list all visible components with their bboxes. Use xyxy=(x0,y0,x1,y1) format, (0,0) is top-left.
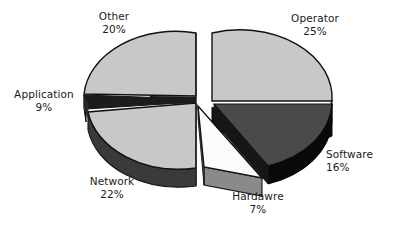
slice-label-network: Network 22% xyxy=(74,175,150,201)
slice-label-software-name: Software xyxy=(326,148,400,161)
slice-label-application-percent: 9% xyxy=(2,101,86,114)
slice-label-other-percent: 20% xyxy=(78,23,150,36)
slice-label-hardawre: Hardawre 7% xyxy=(216,190,300,216)
slice-label-operator-name: Operator xyxy=(272,12,358,25)
slice-label-software-percent: 16% xyxy=(326,161,400,174)
slice-label-other: Other 20% xyxy=(78,10,150,36)
slice-top-operator xyxy=(212,30,332,101)
slice-label-operator-percent: 25% xyxy=(272,25,358,38)
slice-label-hardawre-percent: 7% xyxy=(216,203,300,216)
slice-label-network-name: Network xyxy=(74,175,150,188)
slice-label-network-percent: 22% xyxy=(74,188,150,201)
slice-label-application: Application 9% xyxy=(2,88,86,114)
slice-label-operator: Operator 25% xyxy=(272,12,358,38)
slice-top-application-tip xyxy=(150,96,196,104)
slice-label-other-name: Other xyxy=(78,10,150,23)
pie-chart: Other 20% Operator 25% Software 16% Hard… xyxy=(0,0,400,232)
slice-label-application-name: Application xyxy=(2,88,86,101)
slice-label-hardawre-name: Hardawre xyxy=(216,190,300,203)
slice-label-software: Software 16% xyxy=(326,148,400,174)
slice-top-other xyxy=(84,31,196,96)
